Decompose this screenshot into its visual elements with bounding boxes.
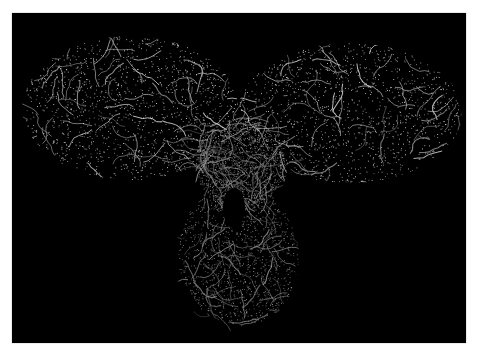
- molecule-viewport[interactable]: [12, 13, 466, 343]
- fc-cavity: [223, 188, 245, 228]
- antibody-mesh-render: [12, 13, 466, 343]
